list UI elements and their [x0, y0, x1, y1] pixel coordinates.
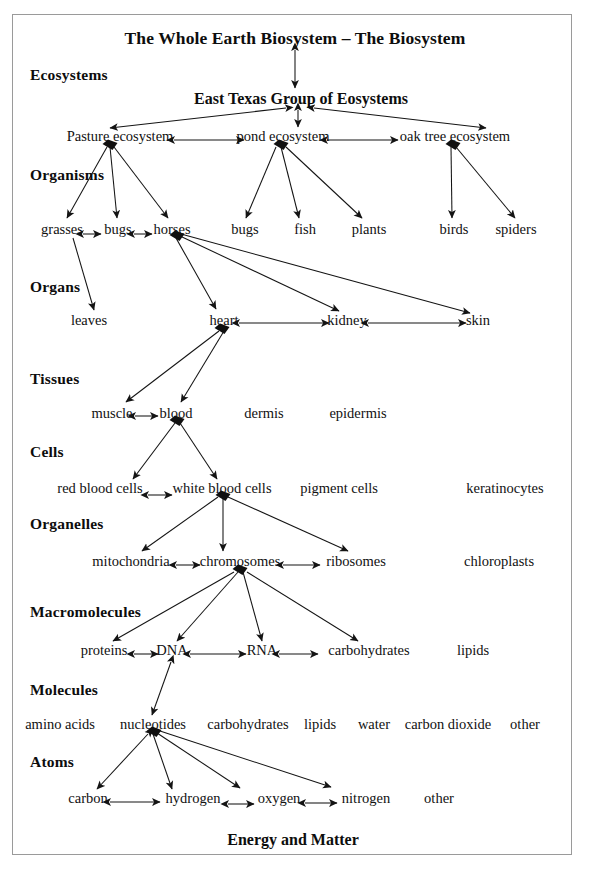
node-atoms-nitrogen: nitrogen — [342, 791, 390, 806]
node-molecules-amino-acids: amino acids — [25, 717, 95, 732]
node-ecosystems-oak-tree-ecosystem: oak tree ecosystem — [400, 129, 510, 144]
node-atoms-carbon: carbon — [68, 791, 107, 806]
level-label-organisms: Organisms — [30, 166, 104, 184]
level-label-molecules: Molecules — [30, 681, 98, 699]
node-cells-red-blood-cells: red blood cells — [57, 481, 142, 496]
node-molecules-carbon-dioxide: carbon dioxide — [405, 717, 492, 732]
level-label-cells: Cells — [30, 443, 64, 461]
node-molecules-water: water — [358, 717, 390, 732]
node-organelles-mitochondria: mitochondria — [92, 554, 169, 569]
level-label-organs: Organs — [30, 278, 80, 296]
energy-and-matter-footer: Energy and Matter — [227, 831, 359, 849]
node-atoms-hydrogen: hydrogen — [166, 791, 221, 806]
node-macromolecules-proteins: proteins — [81, 643, 128, 658]
node-macromolecules-rna: RNA — [247, 643, 278, 658]
level-label-tissues: Tissues — [30, 370, 79, 388]
node-organelles-chromosomes: chromosomes — [200, 554, 281, 569]
node-organisms-birds: birds — [440, 222, 469, 237]
node-molecules-nucleotides: nucleotides — [120, 717, 186, 732]
node-organisms-fish: fish — [294, 222, 316, 237]
node-tissues-blood: blood — [159, 406, 192, 421]
node-tissues-muscle: muscle — [91, 406, 132, 421]
node-macromolecules-dna: DNA — [156, 643, 187, 658]
node-cells-white-blood-cells: white blood cells — [172, 481, 271, 496]
node-organs-kidney: kidney — [327, 313, 366, 328]
level-label-atoms: Atoms — [30, 753, 74, 771]
node-atoms-other: other — [424, 791, 454, 806]
node-tissues-epidermis: epidermis — [329, 406, 386, 421]
node-organisms-grasses: grasses — [41, 222, 83, 237]
node-tissues-dermis: dermis — [244, 406, 283, 421]
node-molecules-lipids: lipids — [304, 717, 336, 732]
node-molecules-carbohydrates: carbohydrates — [207, 717, 288, 732]
node-macromolecules-carbohydrates: carbohydrates — [328, 643, 409, 658]
node-molecules-other: other — [510, 717, 540, 732]
node-organisms-plants: plants — [352, 222, 387, 237]
node-organisms-bugs: bugs — [104, 222, 131, 237]
node-organisms-horses: horses — [153, 222, 190, 237]
node-cells-keratinocytes: keratinocytes — [466, 481, 543, 496]
node-ecosystems-pasture-ecosystem: Pasture ecosystem — [67, 129, 174, 144]
node-organs-skin: skin — [466, 313, 490, 328]
node-organelles-chloroplasts: chloroplasts — [464, 554, 534, 569]
diagram-title: The Whole Earth Biosystem – The Biosyste… — [125, 28, 466, 49]
node-organisms-spiders: spiders — [495, 222, 536, 237]
node-atoms-oxygen: oxygen — [258, 791, 301, 806]
node-organelles-ribosomes: ribosomes — [326, 554, 386, 569]
level-label-organelles: Organelles — [30, 515, 103, 533]
node-ecosystems-pond-ecosystem: pond ecosystem — [236, 129, 329, 144]
node-macromolecules-lipids: lipids — [457, 643, 489, 658]
node-organs-heart: heart — [210, 313, 239, 328]
east-texas-group-title: East Texas Group of Eosystems — [194, 90, 408, 108]
level-label-ecosystems: Ecosystems — [30, 66, 108, 84]
level-label-macromolecules: Macromolecules — [30, 603, 141, 621]
node-organisms-bugs: bugs — [231, 222, 258, 237]
node-organs-leaves: leaves — [71, 313, 107, 328]
node-cells-pigment-cells: pigment cells — [300, 481, 378, 496]
